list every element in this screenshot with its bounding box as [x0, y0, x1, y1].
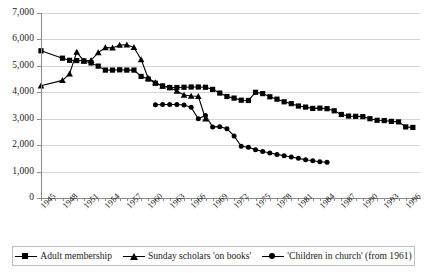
data-point — [310, 158, 315, 163]
data-point — [253, 90, 258, 95]
data-point — [339, 112, 344, 117]
data-point — [181, 92, 188, 98]
series-0 — [38, 48, 415, 130]
data-point — [182, 102, 187, 107]
data-point — [66, 70, 73, 76]
data-point — [73, 49, 80, 55]
data-point — [260, 149, 265, 154]
data-point — [160, 102, 165, 107]
data-point — [103, 67, 108, 72]
chart-legend: Adult membership Sunday scholars 'on boo… — [12, 246, 415, 266]
y-tick-mark — [37, 145, 41, 146]
y-tick-mark — [37, 172, 41, 173]
data-point — [367, 116, 372, 121]
y-tick-label: 1,000 — [12, 167, 34, 177]
data-point — [246, 98, 251, 103]
data-point — [325, 160, 330, 165]
y-axis — [41, 13, 42, 199]
data-point — [96, 64, 101, 69]
data-point — [95, 49, 102, 55]
data-point — [217, 90, 222, 95]
data-point — [153, 102, 158, 107]
square-marker-icon — [15, 252, 37, 261]
circle-marker-icon — [262, 252, 284, 261]
data-point — [196, 84, 201, 89]
data-point — [239, 98, 244, 103]
data-point — [396, 119, 401, 124]
series-2 — [153, 102, 330, 165]
data-point — [210, 124, 215, 129]
chart-container: 01,0002,0003,0004,0005,0006,0007,000 194… — [0, 0, 427, 273]
data-point — [110, 67, 115, 72]
data-point — [124, 67, 129, 72]
data-point — [239, 144, 244, 149]
data-point — [374, 118, 379, 123]
data-point — [289, 101, 294, 106]
data-point — [346, 113, 351, 118]
data-point — [403, 124, 408, 129]
data-point — [174, 102, 179, 107]
data-point — [131, 67, 136, 72]
data-point — [410, 125, 415, 130]
legend-label-adult-membership: Adult membership — [40, 251, 112, 261]
y-tick-mark — [37, 13, 41, 14]
data-point — [196, 116, 201, 121]
data-point — [389, 119, 394, 124]
series-layer — [41, 13, 420, 198]
legend-item-adult-membership: Adult membership — [15, 251, 112, 261]
triangle-marker-icon — [123, 252, 145, 261]
data-point — [303, 104, 308, 109]
data-point — [67, 58, 72, 63]
data-point — [260, 91, 265, 96]
data-point — [296, 103, 301, 108]
data-point — [217, 124, 222, 129]
legend-item-children-in-church: 'Children in church' (from 1961) — [262, 251, 411, 261]
data-point — [274, 97, 279, 102]
data-point — [282, 153, 287, 158]
data-point — [189, 84, 194, 89]
legend-item-sunday-scholars: Sunday scholars 'on books' — [123, 251, 251, 261]
y-tick-label: 3,000 — [12, 114, 34, 124]
data-point — [210, 87, 215, 92]
legend-label-children-in-church: 'Children in church' (from 1961) — [287, 251, 411, 261]
data-point — [303, 157, 308, 162]
data-point — [353, 114, 358, 119]
data-point — [60, 56, 65, 61]
data-point — [267, 151, 272, 156]
y-tick-mark — [37, 119, 41, 120]
data-point — [324, 106, 329, 111]
y-tick-label: 2,000 — [12, 140, 34, 150]
y-tick-label: 7,000 — [12, 8, 34, 18]
data-point — [274, 152, 279, 157]
data-point — [246, 145, 251, 150]
data-point — [181, 85, 186, 90]
series-line — [155, 104, 327, 162]
data-point — [267, 94, 272, 99]
y-tick-mark — [37, 39, 41, 40]
plot-area — [41, 13, 420, 198]
data-point — [332, 108, 337, 113]
data-point — [224, 94, 229, 99]
y-tick-label: 5,000 — [12, 61, 34, 71]
data-point — [139, 74, 144, 79]
data-point — [231, 96, 236, 101]
data-point — [117, 67, 122, 72]
data-point — [138, 56, 145, 62]
data-point — [360, 114, 365, 119]
y-tick-mark — [37, 92, 41, 93]
y-tick-mark — [37, 66, 41, 67]
y-tick-label: 4,000 — [12, 87, 34, 97]
data-point — [317, 106, 322, 111]
data-point — [282, 99, 287, 104]
series-1 — [38, 41, 209, 121]
data-point — [189, 105, 194, 110]
data-point — [310, 106, 315, 111]
y-tick-label: 0 — [29, 193, 34, 203]
y-tick-label: 6,000 — [12, 34, 34, 44]
data-point — [317, 159, 322, 164]
data-point — [253, 147, 258, 152]
data-point — [296, 156, 301, 161]
legend-label-sunday-scholars: Sunday scholars 'on books' — [148, 251, 251, 261]
data-point — [203, 85, 208, 90]
data-point — [167, 102, 172, 107]
